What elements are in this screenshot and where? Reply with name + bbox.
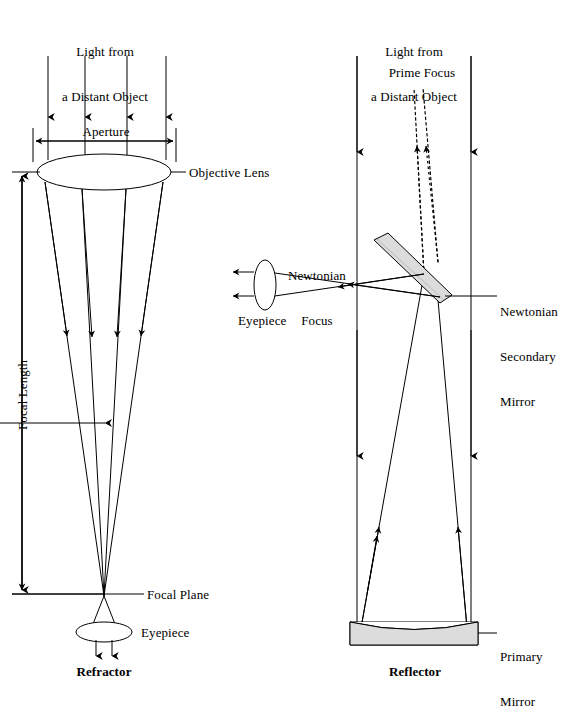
focal-length-label: Focal Length [15,360,30,430]
reflector-reflected-ray-arrows [361,527,467,628]
reflector-incoming-rays [357,56,471,631]
refractor-group [0,56,186,656]
aperture-label: Aperture [64,124,148,139]
secondary-mirror-label: Newtonian Secondary Mirror [500,274,558,439]
objective-lens [37,154,171,190]
newtonian-focus-label: Newtonian Focus [272,238,362,358]
refractor-source-label: Light from a Distant Object [42,14,168,134]
refractor-diverging-rays [93,596,115,624]
reflector-caption: Reflector [355,664,475,679]
refractor-caption: Refractor [44,664,164,679]
reflector-reflected-rays [361,274,467,628]
objective-lens-label: Objective Lens [189,165,269,180]
refractor-converging-ray-arrows [45,182,163,337]
reflector-eyepiece-label: Eyepiece [238,313,286,328]
reflector-exit-rays [233,272,254,296]
refractor-eyepiece-label: Eyepiece [141,625,189,640]
focal-plane-label: Focal Plane [147,587,209,602]
refractor-converging-rays [45,182,163,596]
primary-mirror-label: Primary Mirror [500,619,543,710]
refractor-eyepiece-lens [76,622,132,642]
prime-focus-ray-arrows [417,146,438,274]
newtonian-secondary-mirror [374,233,452,303]
primary-mirror [350,622,478,645]
prime-focus-label: Prime Focus [372,65,472,80]
